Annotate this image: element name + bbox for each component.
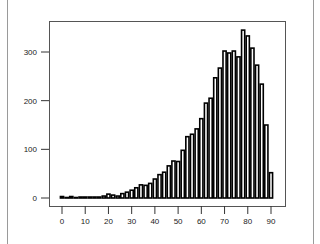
histogram-bar [232,51,235,198]
histogram-bar [228,53,231,198]
y-axis-tick-label: 300 [24,48,38,57]
histogram-bar [153,179,156,198]
histogram-bar [70,197,73,198]
y-axis-tick-label: 200 [24,97,38,106]
histogram-bar [74,198,77,199]
histogram-bar [204,103,207,198]
histogram-bar [181,150,184,198]
histogram-bar [246,36,249,198]
x-axis-tick-label: 90 [267,217,276,226]
histogram-bar [255,65,258,198]
x-axis-tick-label: 80 [243,217,252,226]
histogram-bar [214,78,217,198]
histogram-bar [158,175,161,198]
histogram-bar [135,188,138,198]
histogram-bar [269,173,272,198]
histogram-bar [223,51,226,198]
histogram-bar [125,192,128,198]
histogram-bar [144,185,147,198]
histogram-bar [172,161,175,198]
histogram-bar [190,134,193,198]
histogram-bar [116,196,119,198]
x-axis-tick-label: 10 [81,217,90,226]
x-axis-tick-label: 60 [197,217,206,226]
histogram-bar [130,190,133,198]
y-axis-tick-label: 100 [24,145,38,154]
histogram-bar [200,119,203,198]
histogram-bar [237,57,240,198]
histogram-bar [242,30,245,198]
histogram-bar [102,196,105,198]
histogram-bar [65,198,68,199]
histogram-bar [79,197,82,198]
histogram-bar [88,197,91,198]
histogram-bar [186,137,189,198]
x-axis-tick-label: 20 [104,217,113,226]
x-axis-tick-label: 30 [127,217,136,226]
histogram-bar [112,195,115,198]
histogram-bar [177,162,180,199]
histogram-bar [98,197,101,198]
histogram-bar [209,98,212,198]
y-axis-tick-label: 0 [33,194,38,203]
histogram-bar [195,129,198,198]
histogram-bar [60,197,63,198]
histogram-chart: 01002003000102030405060708090 [0,0,320,244]
histogram-bar [167,166,170,198]
x-axis-tick-label: 50 [174,217,183,226]
x-axis-tick-label: 40 [150,217,159,226]
histogram-bar [121,194,124,198]
histogram-bar [265,125,268,198]
x-axis-tick-label: 70 [220,217,229,226]
histogram-bar [84,197,87,198]
histogram-bar [93,197,96,198]
x-axis-tick-label: 0 [60,217,65,226]
histogram-bar [139,185,142,198]
histogram-bar [218,68,221,198]
histogram-bar [260,84,263,198]
histogram-bar [251,48,254,198]
histogram-bar [163,172,166,198]
histogram-bar [149,183,152,198]
histogram-bar [107,194,110,198]
